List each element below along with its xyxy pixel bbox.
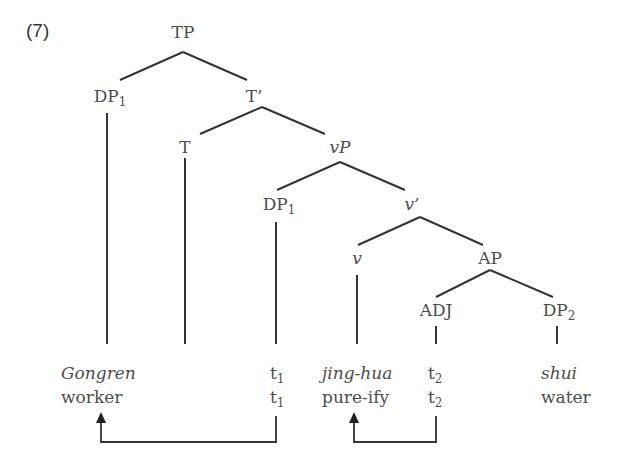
branch-tp-tbar [183, 52, 247, 80]
arrowhead-up-icon [96, 412, 106, 423]
leaf-gloss-trace-1: t1 [270, 387, 284, 407]
leaf-form-trace-1: t1 [270, 363, 284, 383]
leaf-form-shui: shui [541, 363, 577, 383]
branch-tbar-t [200, 107, 262, 134]
node-t-bar: T’ [246, 86, 263, 106]
branch-vp-dp1 [277, 162, 340, 190]
node-t: T [179, 137, 190, 157]
movement-arrow-1 [101, 416, 276, 442]
leaf-form-trace-2: t2 [428, 363, 442, 383]
node-adj: ADJ [420, 300, 453, 320]
node-v: v [352, 248, 362, 268]
branch-vp-vbar [340, 162, 405, 190]
node-dp1-low: DP1 [263, 194, 296, 214]
leaf-gloss-worker: worker [61, 387, 122, 407]
arrowhead-up-icon [349, 412, 359, 423]
node-dp2: DP2 [543, 300, 576, 320]
branch-tp-dp1 [120, 52, 183, 80]
branch-vbar-v [358, 217, 420, 245]
leaf-gloss-pure-ify: pure-ify [322, 387, 389, 407]
branch-vbar-ap [420, 217, 483, 245]
node-ap: AP [478, 248, 502, 268]
leaf-gloss-water: water [541, 387, 591, 407]
movement-arrow-2 [354, 416, 436, 442]
leaf-gloss-trace-2: t2 [428, 387, 442, 407]
leaf-form-jing-hua: jing-hua [322, 363, 392, 383]
branch-tbar-vp [262, 107, 325, 134]
branch-ap-dp2 [490, 270, 553, 297]
node-dp1-spec: DP1 [94, 86, 127, 106]
branch-ap-adj [436, 270, 490, 297]
node-tp: TP [172, 22, 195, 42]
node-vp: vP [329, 137, 350, 157]
node-v-bar: v’ [404, 194, 419, 214]
leaf-form-gongren: Gongren [61, 363, 136, 383]
